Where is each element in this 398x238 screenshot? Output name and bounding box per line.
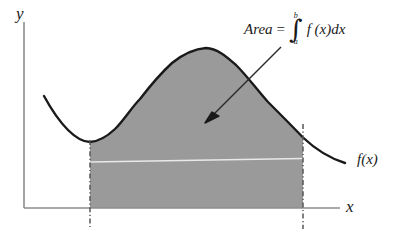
shaded-area-region [90,48,303,208]
area-formula-annotation: Area = b ∫ a f (x)dx [244,12,345,46]
axis-label-x: x [346,198,354,215]
axis-label-y: y [16,5,24,22]
definite-integral: b ∫ a [289,12,303,46]
area-word: Area [244,22,273,37]
integral-lower-limit: a [294,38,298,46]
curve-label-fx: f(x) [357,152,378,167]
equals-sign: = [276,22,286,37]
area-under-curve-figure: y x f(x) Area = b ∫ a f (x)dx [0,0,398,238]
integrand-expression: f (x)dx [307,22,346,37]
integral-sign-icon: ∫ [289,19,303,39]
